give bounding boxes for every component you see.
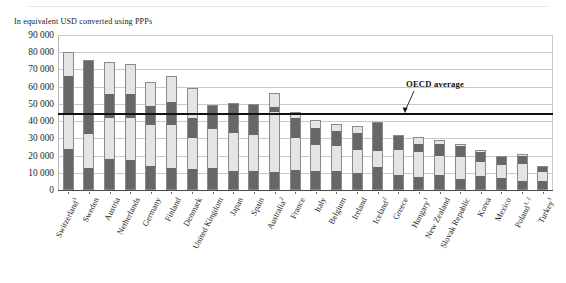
bar-segment: [187, 118, 198, 139]
bar: [187, 88, 198, 190]
bar-segment: [455, 179, 466, 190]
bar-segment: [537, 172, 548, 181]
x-axis-tick: [522, 192, 523, 194]
chart-subtitle: In equivalent USD converted using PPPs: [14, 17, 152, 26]
bar: [207, 105, 218, 190]
bar-segment: [63, 149, 74, 190]
bar-segment: [434, 144, 445, 156]
x-axis-tick: [130, 192, 131, 194]
bar-segment: [104, 159, 115, 190]
bar: [166, 76, 177, 190]
bar-segment: [269, 112, 280, 172]
bar-segment: [434, 140, 445, 143]
x-axis-tick-label: Italy: [313, 196, 328, 214]
bar-segment: [83, 60, 94, 134]
bar: [475, 150, 486, 190]
bar-segment: [63, 52, 74, 76]
bar: [413, 137, 424, 190]
x-axis-tick-label: Australia2: [263, 196, 288, 231]
x-axis-tick-label: Greece: [392, 196, 411, 221]
bar-segment: [269, 172, 280, 190]
bar-segment: [83, 134, 94, 168]
bar-segment: [352, 173, 363, 190]
y-axis-labels: 90 00080 00070 00060 00050 00040 00030 0…: [0, 35, 54, 190]
x-axis-tick: [440, 192, 441, 194]
x-axis-tick-label: Spain: [249, 196, 266, 217]
bar-segment: [187, 169, 198, 190]
x-axis-tick: [481, 192, 482, 194]
bar-segment: [372, 167, 383, 190]
bar: [104, 62, 115, 190]
x-axis-tick: [213, 192, 214, 194]
bar-segment: [517, 164, 528, 180]
bar-segment: [248, 135, 259, 171]
bar-segment: [145, 106, 156, 126]
bar-segment: [352, 150, 363, 173]
bar-segment: [125, 118, 136, 160]
x-axis-tick-label: Turkey1: [535, 196, 557, 225]
bar: [372, 122, 383, 190]
bar-segment: [310, 171, 321, 190]
x-axis-tick-label: Mexico: [494, 196, 514, 223]
bar-segment: [290, 170, 301, 190]
bar-segment: [310, 145, 321, 171]
bar-segment: [537, 181, 548, 190]
x-axis-line: [58, 190, 553, 191]
x-axis-tick: [357, 192, 358, 194]
bar-segment: [207, 168, 218, 190]
x-axis-tick-label: Finland: [164, 196, 184, 223]
bar-segment: [269, 93, 280, 108]
bar-segment: [331, 131, 342, 147]
bar-segment: [269, 107, 280, 111]
bar: [145, 82, 156, 191]
bar-segment: [517, 156, 528, 165]
bar-segment: [331, 171, 342, 190]
bar-segment: [475, 162, 486, 177]
bar-segment: [475, 150, 486, 153]
x-axis-tick: [192, 192, 193, 194]
x-axis-tick-label: Japan: [229, 196, 246, 217]
bar-segment: [145, 125, 156, 165]
x-axis-tick: [316, 192, 317, 194]
bar: [352, 126, 363, 190]
x-axis-tick: [171, 192, 172, 194]
bar-segment: [331, 124, 342, 131]
x-axis-tick: [543, 192, 544, 194]
bar-segment: [455, 157, 466, 179]
x-axis-tick: [233, 192, 234, 194]
bar-segment: [372, 122, 383, 151]
bar-segment: [331, 146, 342, 171]
bar-segment: [517, 154, 528, 156]
bar: [310, 120, 321, 190]
bar: [269, 93, 280, 190]
x-axis-tick: [419, 192, 420, 194]
bar-segment: [166, 76, 177, 102]
x-axis-tick: [254, 192, 255, 194]
x-axis-tick: [501, 192, 502, 194]
bar-segment: [145, 166, 156, 190]
x-axis-tick-label: Korea: [476, 196, 493, 218]
bar: [290, 112, 301, 190]
bar-segment: [187, 138, 198, 169]
bar-segment: [393, 150, 404, 175]
bar: [63, 52, 74, 190]
bar-segment: [352, 126, 363, 133]
x-axis-tick: [151, 192, 152, 194]
y-axis-tick-label: 0: [49, 185, 54, 195]
x-axis-tick-label: Belgium: [327, 196, 348, 226]
x-axis-tick: [295, 192, 296, 194]
bar-segment: [248, 171, 259, 190]
bar: [248, 104, 259, 190]
bar-segment: [393, 175, 404, 190]
bar-segment: [207, 105, 218, 129]
x-axis-tick-label: Ireland: [350, 196, 369, 221]
x-axis-tick-label: Switzerland1: [53, 196, 82, 239]
bar-segment: [228, 133, 239, 171]
oecd-average-arrow: [398, 89, 438, 129]
x-axis-tick-label: France: [289, 196, 307, 220]
y-axis-tick-label: 70 000: [28, 64, 54, 74]
bar-segment: [228, 103, 239, 133]
bar-segment: [145, 82, 156, 106]
bar-segment: [352, 133, 363, 149]
bar-segment: [166, 168, 177, 190]
